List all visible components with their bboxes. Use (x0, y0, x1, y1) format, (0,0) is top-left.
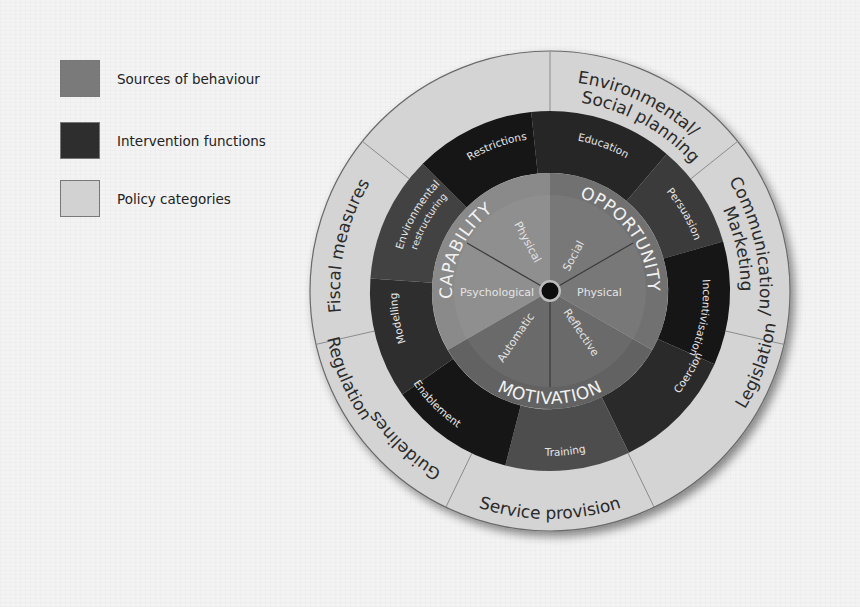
center-dot (542, 283, 559, 300)
label-physical-opportunity: Physical (577, 286, 622, 299)
behaviour-change-wheel: Guidelines Environmental/ Social plannin… (0, 0, 860, 607)
label-psychological: Psychological (460, 286, 534, 299)
wheel-group (310, 51, 790, 531)
